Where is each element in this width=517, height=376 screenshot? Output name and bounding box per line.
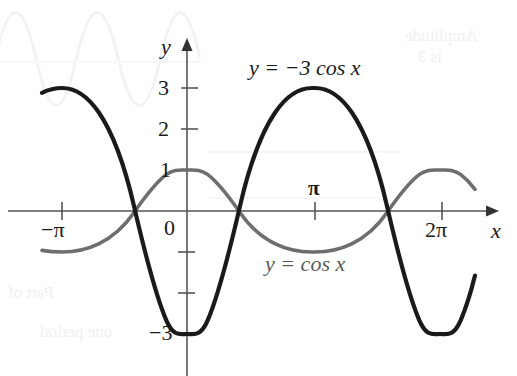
curve-label-neg-3-cos-x: y = −3 cos x xyxy=(249,57,361,79)
y-axis-arrowhead xyxy=(182,38,193,51)
y-axis-label: y xyxy=(161,36,171,58)
y-tick-label-neg-3: −3 xyxy=(149,322,172,344)
y-tick-label-2: 2 xyxy=(158,118,169,140)
x-tick-label-2pi: 2π xyxy=(425,219,447,241)
axes-group xyxy=(8,38,499,376)
y-tick-label-1: 1 xyxy=(160,159,171,181)
x-tick-label-pi: π xyxy=(308,178,320,199)
origin-label: 0 xyxy=(164,217,175,239)
x-tick-label-neg-pi: −π xyxy=(41,219,65,241)
x-axis-arrowhead xyxy=(486,206,499,217)
ghost-line-artifact xyxy=(210,152,400,198)
x-axis-label: x xyxy=(491,220,501,242)
curve-label-cos-x: y = cos x xyxy=(265,253,345,275)
y-tick-label-3: 3 xyxy=(158,77,169,99)
ghost-wave-artifact xyxy=(0,12,200,105)
